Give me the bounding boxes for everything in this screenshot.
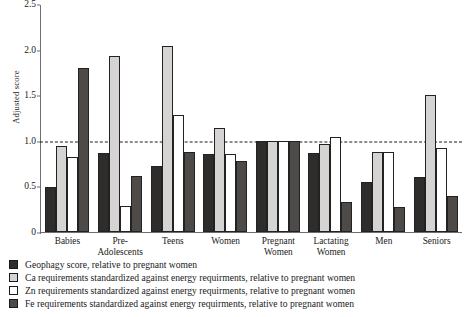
bar xyxy=(330,137,341,232)
x-axis-label-line: Men xyxy=(358,236,411,247)
y-axis-tick-mark xyxy=(37,50,40,51)
bar-group xyxy=(252,5,305,232)
bar xyxy=(289,141,300,232)
bar-group xyxy=(199,5,252,232)
y-axis-tick-label: 1.0 xyxy=(6,137,36,147)
x-axis-label-line: Teens xyxy=(147,236,200,247)
plot-area: 00.51.01.52.02.5 xyxy=(40,5,462,233)
bar xyxy=(308,153,319,232)
x-axis-label-line: Lactating xyxy=(305,236,358,247)
y-axis-tick-label: 0.5 xyxy=(6,183,36,193)
bar xyxy=(267,141,278,232)
x-axis-tick-label: Pre-Adolescents xyxy=(94,236,147,258)
x-axis-tick-label: LactatingWomen xyxy=(305,236,358,258)
x-axis-label-line: Seniors xyxy=(410,236,463,247)
x-axis-label-line: Women xyxy=(199,236,252,247)
bar xyxy=(361,182,372,232)
bar-groups xyxy=(41,5,462,232)
y-axis-tick-mark xyxy=(37,96,40,97)
y-axis-tick-label: 2.0 xyxy=(6,46,36,56)
legend-label: Geophagy score, relative to pregnant wom… xyxy=(25,259,197,270)
bar-group xyxy=(357,5,410,232)
x-axis-label-line: Adolescents xyxy=(94,247,147,258)
legend-label: Fe requirements standardized against ene… xyxy=(25,298,354,309)
bar xyxy=(173,115,184,232)
legend-swatch xyxy=(9,273,18,282)
legend-item: Zn requirements standardized against ene… xyxy=(9,284,464,297)
y-axis-tick-mark xyxy=(37,187,40,188)
y-axis-tick-mark xyxy=(37,5,40,6)
x-axis-tick-label: Babies xyxy=(41,236,94,258)
bar xyxy=(278,141,289,232)
x-axis-line xyxy=(40,232,462,233)
bar-group xyxy=(409,5,462,232)
y-axis-tick-label: 2.5 xyxy=(6,0,36,10)
bar xyxy=(394,207,405,232)
x-axis-tick-label: Men xyxy=(358,236,411,258)
bar xyxy=(436,148,447,232)
bar xyxy=(45,187,56,232)
x-axis-label-line: Women xyxy=(252,247,305,258)
x-axis-tick-label: Teens xyxy=(147,236,200,258)
x-axis-label-line: Pre- xyxy=(94,236,147,247)
bar-chart-figure: Adjusted score 00.51.01.52.02.5 BabiesPr… xyxy=(0,0,466,317)
x-axis-label-line: Babies xyxy=(41,236,94,247)
x-axis-tick-label: Women xyxy=(199,236,252,258)
bar xyxy=(341,202,352,232)
bar xyxy=(56,146,67,232)
bar xyxy=(184,152,195,232)
legend-swatch xyxy=(9,286,18,295)
bar xyxy=(203,154,214,232)
bar-group xyxy=(41,5,94,232)
legend-item: Fe requirements standardized against ene… xyxy=(9,297,464,310)
bar xyxy=(447,196,458,232)
bar xyxy=(383,152,394,232)
bar xyxy=(414,177,425,232)
x-axis-tick-label: Seniors xyxy=(410,236,463,258)
bar xyxy=(256,141,267,232)
x-axis-labels: BabiesPre-AdolescentsTeensWomenPregnantW… xyxy=(41,236,463,258)
bar xyxy=(425,95,436,232)
legend-item: Geophagy score, relative to pregnant wom… xyxy=(9,258,464,271)
chart-legend: Geophagy score, relative to pregnant wom… xyxy=(9,258,464,310)
legend-label: Zn requirements standardized against ene… xyxy=(25,285,355,296)
y-axis-tick-mark xyxy=(37,233,40,234)
bar-group xyxy=(146,5,199,232)
bar xyxy=(131,176,142,232)
bar xyxy=(225,154,236,232)
x-axis-label-line: Women xyxy=(305,247,358,258)
bar xyxy=(120,206,131,232)
x-axis-tick-label: PregnantWomen xyxy=(252,236,305,258)
legend-label: Ca requirements standardized against ene… xyxy=(25,272,355,283)
legend-swatch xyxy=(9,260,18,269)
bar-group xyxy=(304,5,357,232)
x-axis-label-line: Pregnant xyxy=(252,236,305,247)
bar xyxy=(214,128,225,232)
bar xyxy=(109,56,120,232)
bar xyxy=(78,68,89,232)
bar-group xyxy=(94,5,147,232)
legend-swatch xyxy=(9,299,18,308)
bar xyxy=(162,46,173,232)
legend-item: Ca requirements standardized against ene… xyxy=(9,271,464,284)
bar xyxy=(67,157,78,232)
bar xyxy=(98,153,109,232)
bar xyxy=(319,144,330,232)
y-axis-tick-label: 1.5 xyxy=(6,91,36,101)
y-axis-tick-label: 0 xyxy=(6,228,36,238)
bar xyxy=(372,152,383,232)
bar xyxy=(151,166,162,232)
bar xyxy=(236,161,247,232)
